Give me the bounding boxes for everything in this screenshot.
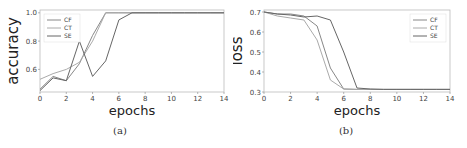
accuracy-chart-panel: 024681012140.60.81.0CFCTSEepochsaccuracy… xyxy=(0,0,233,148)
x-tick-label: 4 xyxy=(90,95,95,103)
legend-label: CF xyxy=(64,16,72,23)
x-axis-label: epochs xyxy=(109,103,156,118)
y-tick-label: 1.0 xyxy=(26,9,37,17)
y-tick-label: 0.4 xyxy=(250,69,262,77)
loss-chart-panel: 024681012140.30.40.50.60.7CFCTSEepochslo… xyxy=(233,0,466,148)
y-tick-label: 0.8 xyxy=(26,38,37,46)
y-tick-label: 0.3 xyxy=(250,89,261,97)
y-axis-label: loss xyxy=(233,36,246,65)
y-axis-label: accuracy xyxy=(4,17,22,85)
x-tick-label: 0 xyxy=(262,95,266,103)
x-tick-label: 10 xyxy=(392,95,401,103)
legend-label: SE xyxy=(430,32,438,39)
x-tick-label: 6 xyxy=(117,95,122,103)
y-tick-label: 0.6 xyxy=(26,66,38,74)
x-tick-label: 14 xyxy=(220,95,229,103)
caption-a: (a) xyxy=(100,125,140,136)
x-tick-label: 4 xyxy=(315,95,320,103)
y-tick-label: 0.7 xyxy=(250,9,261,17)
x-tick-label: 2 xyxy=(288,95,292,103)
x-tick-label: 12 xyxy=(193,95,202,103)
y-tick-label: 0.5 xyxy=(250,49,261,57)
x-tick-label: 8 xyxy=(368,95,372,103)
x-tick-label: 10 xyxy=(167,95,176,103)
x-tick-label: 0 xyxy=(38,95,42,103)
y-tick-label: 0.6 xyxy=(250,29,262,37)
accuracy-chart: 024681012140.60.81.0CFCTSEepochsaccuracy xyxy=(0,0,233,125)
x-axis-label: epochs xyxy=(334,103,381,118)
caption-b: (b) xyxy=(326,125,366,136)
x-tick-label: 6 xyxy=(341,95,346,103)
loss-chart: 024681012140.30.40.50.60.7CFCTSEepochslo… xyxy=(233,0,467,125)
x-tick-label: 2 xyxy=(64,95,68,103)
legend-label: CT xyxy=(430,24,438,31)
legend-label: CT xyxy=(64,24,72,31)
x-tick-label: 8 xyxy=(143,95,147,103)
legend-label: CF xyxy=(430,16,438,23)
legend-label: SE xyxy=(64,32,72,39)
x-tick-label: 12 xyxy=(419,95,428,103)
x-tick-label: 14 xyxy=(446,95,455,103)
